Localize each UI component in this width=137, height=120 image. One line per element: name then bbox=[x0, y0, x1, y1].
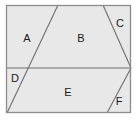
region-label-b: B bbox=[77, 32, 84, 44]
region-label-a: A bbox=[23, 32, 31, 44]
region-label-f: F bbox=[116, 95, 123, 107]
figure-container: A B C D E F bbox=[0, 0, 137, 120]
region-label-e: E bbox=[64, 86, 71, 98]
partitioned-rectangle-figure: A B C D E F bbox=[0, 0, 137, 120]
region-label-d: D bbox=[11, 72, 19, 84]
region-label-c: C bbox=[116, 17, 124, 29]
